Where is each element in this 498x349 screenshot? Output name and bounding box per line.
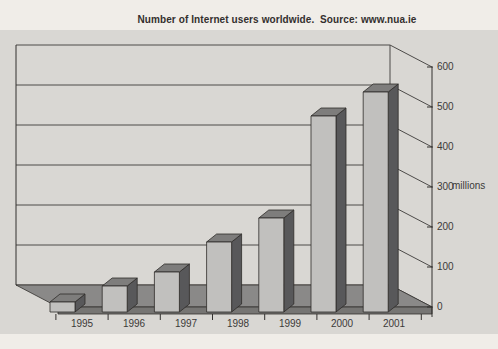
x-axis-category-label: 1997	[164, 318, 208, 329]
x-axis-category-label: 1999	[268, 318, 312, 329]
chart-image: Number of Internet users worldwide. Sour…	[0, 0, 498, 349]
y-axis-tick-label: 200	[437, 221, 454, 233]
bar-1997	[154, 264, 189, 312]
y-axis-unit-label: millions	[452, 180, 485, 191]
x-axis-category-label: 1998	[216, 318, 260, 329]
x-axis-category-label: 1995	[60, 318, 104, 329]
bar-1996	[102, 278, 137, 312]
bars-layer	[50, 84, 398, 312]
bar-1999	[259, 210, 294, 312]
x-axis-category-label: 2001	[372, 318, 416, 329]
chart-canvas	[0, 0, 498, 349]
x-axis-category-label: 2000	[320, 318, 364, 329]
y-axis-tick-label: 500	[437, 101, 454, 113]
y-axis-tick-label: 400	[437, 141, 454, 153]
bar-2000	[311, 108, 346, 312]
x-axis-category-label: 1996	[112, 318, 156, 329]
y-axis-tick-label: 100	[437, 261, 454, 273]
y-axis-tick-label: 0	[437, 301, 443, 313]
bar-2001	[363, 84, 398, 312]
y-axis-tick-label: 600	[437, 61, 454, 73]
bar-1998	[207, 234, 242, 312]
